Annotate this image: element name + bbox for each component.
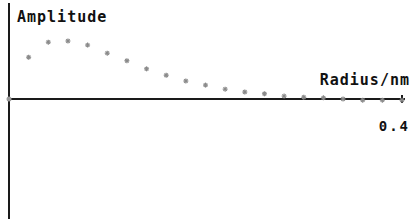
x-tick-label: 0.4 bbox=[379, 118, 410, 134]
y-axis-label: Amplitude bbox=[17, 8, 107, 26]
data-point bbox=[360, 98, 365, 103]
data-point bbox=[203, 83, 208, 88]
data-point bbox=[85, 43, 90, 48]
data-point bbox=[183, 79, 188, 84]
data-point bbox=[223, 87, 228, 92]
data-point bbox=[164, 73, 169, 78]
data-point bbox=[301, 95, 306, 100]
data-point bbox=[144, 66, 149, 71]
data-point bbox=[46, 40, 51, 45]
data-point bbox=[105, 51, 110, 56]
data-point bbox=[65, 39, 70, 44]
data-point bbox=[242, 90, 247, 95]
data-point bbox=[124, 58, 129, 63]
data-point bbox=[321, 95, 326, 100]
x-axis-label: Radius/nm bbox=[320, 71, 410, 89]
data-point bbox=[262, 91, 267, 96]
data-point bbox=[380, 98, 385, 103]
data-point bbox=[282, 94, 287, 99]
data-point bbox=[400, 98, 405, 103]
chart: Amplitude Radius/nm 0.4 bbox=[0, 0, 418, 222]
origin-marker bbox=[7, 97, 12, 102]
data-point bbox=[26, 55, 31, 60]
data-point bbox=[341, 97, 346, 102]
